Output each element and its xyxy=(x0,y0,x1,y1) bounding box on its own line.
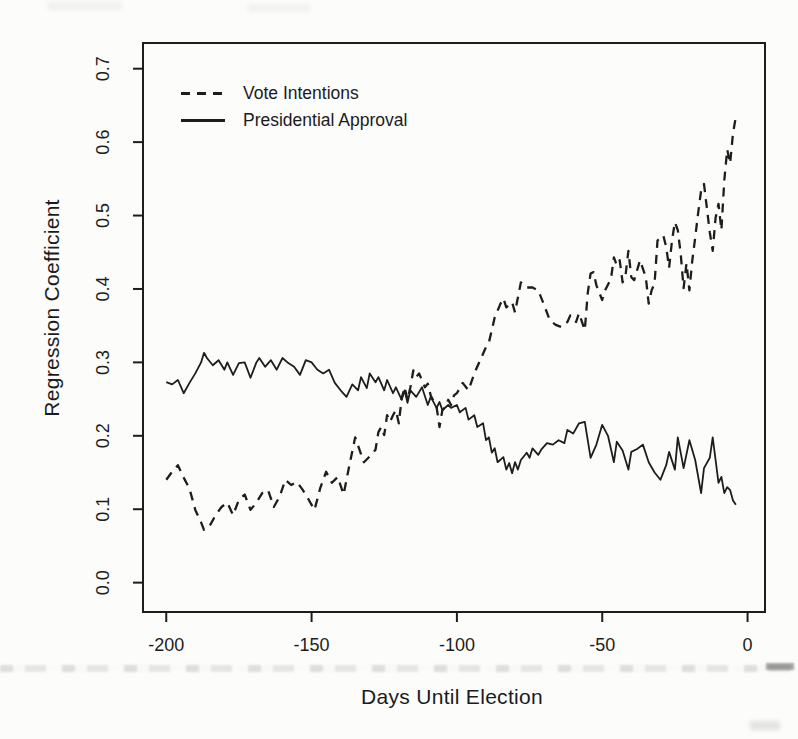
vote-intentions-line xyxy=(166,116,736,529)
x-tick-label: -50 xyxy=(589,635,615,655)
y-tick-label: 0.4 xyxy=(93,276,113,301)
presidential-approval-line xyxy=(166,353,736,505)
x-axis-title: Days Until Election xyxy=(361,685,543,709)
y-tick-label: 0.1 xyxy=(93,497,113,522)
y-tick-label: 0.5 xyxy=(93,203,113,228)
legend-item-vote-intentions: Vote Intentions xyxy=(181,84,407,102)
x-tick-label: -150 xyxy=(294,635,330,655)
solid-line-sample-icon xyxy=(181,119,225,122)
y-tick-label: 0.6 xyxy=(93,130,113,155)
legend-item-presidential-approval: Presidential Approval xyxy=(181,111,407,129)
y-tick-label: 0.0 xyxy=(93,570,113,595)
scanned-figure-page: -200-150-100-5000.00.10.20.30.40.50.60.7… xyxy=(0,0,798,739)
x-tick-label: -100 xyxy=(439,635,475,655)
y-tick-label: 0.3 xyxy=(93,350,113,375)
y-tick-label: 0.2 xyxy=(93,423,113,448)
legend: Vote Intentions Presidential Approval xyxy=(181,84,407,129)
legend-label-vote-intentions: Vote Intentions xyxy=(243,84,359,102)
dashed-line-sample-icon xyxy=(181,92,225,95)
legend-label-presidential-approval: Presidential Approval xyxy=(243,111,407,129)
x-tick-label: -200 xyxy=(148,635,184,655)
x-tick-label: 0 xyxy=(743,635,753,655)
y-axis-title: Regression Coefficient xyxy=(40,199,64,417)
y-tick-label: 0.7 xyxy=(93,56,113,81)
